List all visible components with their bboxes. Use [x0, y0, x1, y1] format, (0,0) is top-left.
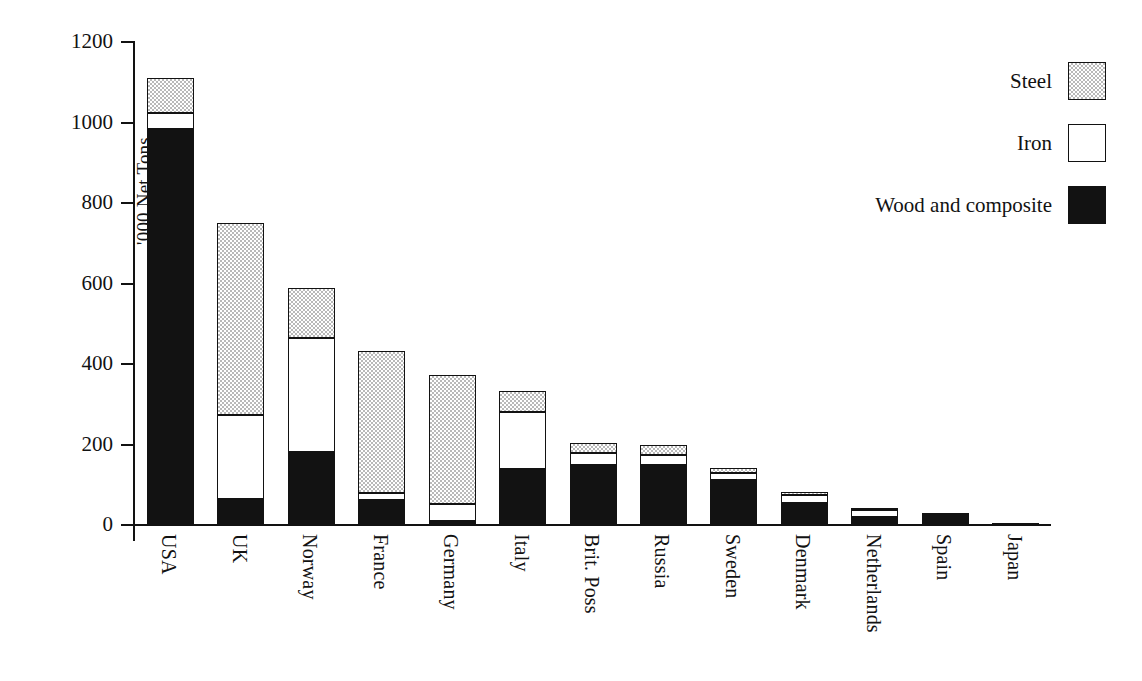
- bar-germany: [429, 42, 476, 525]
- bar-segment-iron: [358, 493, 405, 500]
- x-label-japan: Japan: [1006, 534, 1024, 581]
- y-tick-mark: [121, 444, 135, 446]
- bar-segment-iron: [217, 415, 264, 499]
- chart-legend: Steel Iron Wood and composite: [676, 62, 1106, 248]
- bar-segment-wood-and-composite: [358, 500, 405, 525]
- bar-segment-steel: [640, 445, 687, 455]
- bar-segment-steel: [429, 375, 476, 504]
- bar-segment-iron: [640, 455, 687, 465]
- x-label-usa: USA: [160, 534, 178, 575]
- x-label-france: France: [372, 534, 390, 590]
- x-label-italy: Italy: [513, 534, 531, 572]
- bar-segment-wood-and-composite: [640, 465, 687, 525]
- y-tick-mark: [121, 363, 135, 365]
- x-label-denmark: Denmark: [794, 534, 812, 610]
- x-label-uk: UK: [231, 534, 249, 563]
- legend-label-wood: Wood and composite: [875, 195, 1052, 216]
- legend-label-steel: Steel: [1010, 71, 1052, 92]
- bar-brit-poss: [570, 42, 617, 525]
- bar-segment-iron: [781, 495, 828, 503]
- bar-segment-steel: [288, 288, 335, 338]
- bar-segment-steel: [217, 223, 264, 415]
- bar-segment-steel: [499, 391, 546, 412]
- y-tick-label: 0: [3, 514, 113, 535]
- bar-norway: [288, 42, 335, 525]
- bar-france: [358, 42, 405, 525]
- y-tick-mark: [121, 202, 135, 204]
- bar-segment-steel: [358, 351, 405, 493]
- x-label-spain: Spain: [935, 534, 953, 581]
- bar-segment-iron: [429, 504, 476, 521]
- y-tick-label: 200: [3, 434, 113, 455]
- bar-segment-steel: [851, 508, 898, 511]
- legend-item-wood: Wood and composite: [676, 186, 1106, 224]
- stacked-bar-chart: '000 Net Tons 120010008006004002000 USAU…: [0, 0, 1142, 681]
- bar-segment-wood-and-composite: [570, 465, 617, 525]
- bar-italy: [499, 42, 546, 525]
- bar-segment-wood-and-composite: [922, 513, 969, 525]
- bar-segment-iron: [570, 453, 617, 465]
- x-label-norway: Norway: [301, 534, 319, 600]
- bar-usa: [147, 42, 194, 525]
- legend-item-steel: Steel: [676, 62, 1106, 100]
- bar-segment-wood-and-composite: [851, 517, 898, 525]
- y-tick-mark: [121, 41, 135, 43]
- y-tick-mark: [121, 122, 135, 124]
- bar-segment-wood-and-composite: [710, 480, 757, 525]
- bar-uk: [217, 42, 264, 525]
- bar-segment-wood-and-composite: [499, 469, 546, 525]
- bar-segment-iron: [710, 473, 757, 480]
- bar-segment-iron: [288, 338, 335, 452]
- bar-segment-steel: [147, 78, 194, 113]
- bar-segment-wood-and-composite: [992, 523, 1039, 526]
- x-label-germany: Germany: [442, 534, 460, 610]
- iron-white-swatch: [1068, 124, 1106, 162]
- bar-segment-iron: [851, 510, 898, 517]
- bar-segment-steel: [781, 492, 828, 495]
- legend-label-iron: Iron: [1017, 133, 1052, 154]
- bar-segment-wood-and-composite: [147, 129, 194, 525]
- bar-segment-steel: [570, 443, 617, 453]
- steel-pattern-swatch: [1068, 62, 1106, 100]
- x-label-brit-poss: Brit. Poss: [583, 534, 601, 614]
- wood-black-swatch: [1068, 186, 1106, 224]
- y-tick-mark: [121, 283, 135, 285]
- y-tick-label: 800: [3, 192, 113, 213]
- bar-segment-wood-and-composite: [217, 499, 264, 525]
- legend-item-iron: Iron: [676, 124, 1106, 162]
- y-tick-label: 400: [3, 353, 113, 374]
- bar-segment-iron: [499, 412, 546, 468]
- y-tick-label: 1200: [3, 31, 113, 52]
- bar-segment-steel: [710, 468, 757, 473]
- bar-segment-wood-and-composite: [781, 503, 828, 525]
- y-tick-label: 600: [3, 273, 113, 294]
- x-label-russia: Russia: [653, 534, 671, 589]
- y-tick-label: 1000: [3, 112, 113, 133]
- bar-segment-wood-and-composite: [288, 452, 335, 525]
- bar-segment-wood-and-composite: [429, 521, 476, 525]
- bar-segment-iron: [147, 113, 194, 128]
- x-label-sweden: Sweden: [724, 534, 742, 599]
- x-label-netherlands: Netherlands: [865, 534, 883, 633]
